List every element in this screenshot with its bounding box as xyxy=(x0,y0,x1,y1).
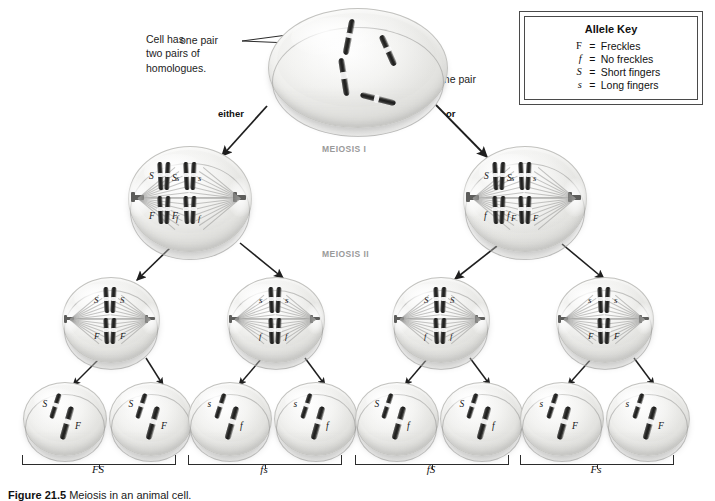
chromosome-dyad-S xyxy=(104,287,116,313)
allele-label-s: s xyxy=(208,400,212,410)
gamete-cell-1: SF xyxy=(23,382,105,454)
allele-symbol: S xyxy=(562,65,586,78)
allele-label-F: F xyxy=(161,422,167,432)
sister-chromatid xyxy=(275,287,281,313)
sister-chromatid xyxy=(518,196,524,224)
allele-label-s: s xyxy=(198,174,201,183)
chromosome-dyad-s xyxy=(184,162,196,190)
allele-key-row: F = Freckles xyxy=(562,39,661,52)
allele-label-F: F xyxy=(658,422,664,432)
figure-caption: Figure 21.5 Meiosis in an animal cell. xyxy=(8,489,708,501)
chromosome-dyad-S xyxy=(493,162,505,190)
cell-note-line: two pairs of xyxy=(146,46,206,60)
allele-label-f: f xyxy=(484,212,487,222)
allele-label-F: F xyxy=(572,422,578,432)
allele-key-box: Allele Key F = Freckles f = No freckles … xyxy=(519,11,703,105)
gamete-cell-4: sf xyxy=(274,382,356,454)
allele-label-F: F xyxy=(75,422,81,432)
sister-chromatid xyxy=(433,287,439,313)
sister-chromatid xyxy=(183,196,189,224)
allele-label-s: s xyxy=(259,296,263,305)
allele-description: Long fingers xyxy=(599,78,661,91)
gamete-cell-2: SF xyxy=(109,382,191,454)
allele-key-table: F = Freckles f = No freckles S = Short f… xyxy=(562,39,661,91)
allele-label-S: S xyxy=(424,296,429,305)
meiosis-ii-cell-1: SSFF xyxy=(62,277,158,361)
allele-label-F: F xyxy=(511,214,516,223)
sister-chromatid xyxy=(268,287,274,313)
allele-key-row: s = Long fingers xyxy=(562,78,661,91)
sister-chromatid xyxy=(164,196,170,224)
arrow-left-to-ii-a xyxy=(137,246,172,280)
sister-chromatid xyxy=(440,318,446,344)
chromosome-dyad-s xyxy=(269,287,281,313)
sister-chromatid xyxy=(275,318,281,344)
allele-label-f: f xyxy=(326,422,329,432)
figure-number: Figure 21.5 xyxy=(8,489,66,501)
meiosis-ii-cell-3: SSff xyxy=(392,277,488,361)
allele-label-F: F xyxy=(533,214,538,223)
sister-chromatid xyxy=(604,318,610,344)
arrow-right-to-ii-a xyxy=(455,246,497,279)
allele-description: Short fingers xyxy=(599,65,661,78)
sister-chromatid xyxy=(597,318,603,344)
allele-label-s: s xyxy=(626,400,630,410)
allele-label-S: S xyxy=(375,400,380,410)
allele-label-F: F xyxy=(120,332,126,341)
meiosis-ii-cell-4: ssFF xyxy=(556,277,652,361)
gamete-cell-3: sf xyxy=(188,382,270,454)
allele-label-f: f xyxy=(492,422,495,432)
allele-label-s: s xyxy=(588,296,592,305)
sister-chromatid xyxy=(268,318,274,344)
or-label: or xyxy=(446,108,456,119)
gamete-group-label: fS xyxy=(355,463,507,475)
meiosis-ii-label: MEIOSIS II xyxy=(322,249,369,259)
chromosome-dyad-F xyxy=(598,318,610,344)
chromosome-dyad-f xyxy=(269,318,281,344)
allele-label-F: F xyxy=(614,332,620,341)
allele-symbol: F xyxy=(562,39,586,52)
allele-label-f: f xyxy=(407,422,410,432)
meiosis-i-cell-left: SSssFFff xyxy=(128,146,250,250)
allele-equals: = xyxy=(586,39,599,52)
meiosis-ii-cell-2: ssff xyxy=(227,277,323,361)
sister-chromatid xyxy=(604,287,610,313)
allele-key-row: f = No freckles xyxy=(562,52,661,65)
allele-label-s: s xyxy=(294,400,298,410)
sister-chromatid xyxy=(164,162,170,190)
allele-label-s: s xyxy=(614,296,618,305)
sister-chromatid xyxy=(110,287,116,313)
allele-label-f: f xyxy=(198,214,200,223)
allele-label-S: S xyxy=(129,400,134,410)
chromosome-dyad-s xyxy=(519,162,531,190)
allele-symbol: f xyxy=(562,52,586,65)
allele-label-F: F xyxy=(94,332,100,341)
gamete-cell-7: sF xyxy=(520,382,602,454)
sister-chromatid xyxy=(492,162,498,190)
gamete-cell-8: sF xyxy=(606,382,688,454)
sister-chromatid xyxy=(103,287,109,313)
chromosome-dyad-F xyxy=(158,196,170,224)
sister-chromatid xyxy=(190,196,196,224)
allele-label-S: S xyxy=(43,400,48,410)
allele-label-F: F xyxy=(149,212,155,222)
allele-label-s: s xyxy=(540,400,544,410)
allele-key-inner: Allele Key F = Freckles f = No freckles … xyxy=(524,16,698,100)
cell-membrane xyxy=(268,8,448,128)
sister-chromatid xyxy=(525,196,531,224)
allele-symbol: s xyxy=(562,78,586,91)
cell-note-line: homologues. xyxy=(146,61,206,75)
either-label: either xyxy=(218,108,244,119)
chromosome-dyad-F xyxy=(104,318,116,344)
gamete-group-label: Fs xyxy=(520,463,672,475)
chromosome-dyad-f xyxy=(434,318,446,344)
allele-label-f: f xyxy=(259,332,262,341)
allele-label-f: f xyxy=(450,332,453,341)
figure-caption-text: Meiosis in an animal cell. xyxy=(69,489,191,501)
allele-label-S: S xyxy=(120,296,125,305)
gamete-group-label: FS xyxy=(22,463,174,475)
allele-label-f: f xyxy=(507,212,510,222)
sister-chromatid xyxy=(518,162,524,190)
gamete-cell-6: Sf xyxy=(440,382,522,454)
